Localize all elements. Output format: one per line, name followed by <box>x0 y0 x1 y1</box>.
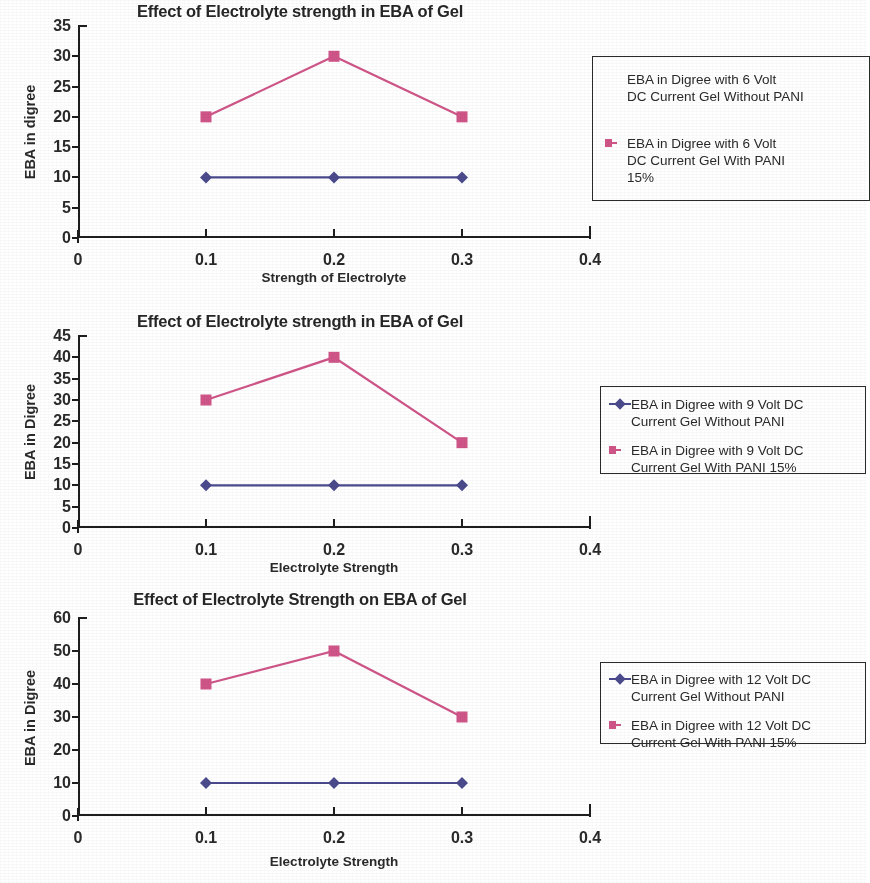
chart-1-y-tick-label: 0 <box>62 230 71 246</box>
chart-2-series-1-point <box>200 479 212 491</box>
chart-3-series-2-line <box>206 651 462 717</box>
chart-1-x-tick-label: 0.1 <box>195 252 217 268</box>
chart-figure-3: Effect of Electrolyte Strength on EBA of… <box>0 588 867 883</box>
chart-2-y-tick-label: 10 <box>53 477 71 493</box>
chart-2-x-tick-label: 0.3 <box>451 542 473 558</box>
chart-1-series-2-point <box>329 51 340 62</box>
chart-3-legend-label-2: EBA in Digree with 12 Volt DC Current Ge… <box>631 717 811 751</box>
chart-2-y-axis-title: EBA in Digree <box>22 384 38 480</box>
chart-2-y-tick-label: 0 <box>62 520 71 536</box>
chart-1-y-tick-label: 10 <box>53 169 71 185</box>
chart-2-series-1-point <box>456 479 468 491</box>
chart-2-series-2-line <box>206 357 462 442</box>
chart-3-series-2-point <box>329 646 340 657</box>
chart-2-legend-label-1: EBA in Digree with 9 Volt DC Current Gel… <box>631 396 804 430</box>
chart-3-plot-area: 010203040506000.10.20.30.4 <box>78 618 590 816</box>
chart-3-series-layer <box>78 618 590 816</box>
chart-3-legend-entry-1[interactable]: EBA in Digree with 12 Volt DC Current Ge… <box>609 671 857 705</box>
chart-3-y-tick-label: 40 <box>53 676 71 692</box>
chart-1-legend-label-2: EBA in Digree with 6 Volt DC Current Gel… <box>627 135 785 186</box>
chart-3-legend-label-1: EBA in Digree with 12 Volt DC Current Ge… <box>631 671 811 705</box>
chart-1-series-2-line <box>206 56 462 117</box>
chart-2-series-2-point <box>329 352 340 363</box>
chart-2-title: Effect of Electrolyte strength in EBA of… <box>0 312 600 331</box>
chart-3-y-axis-title: EBA in Digree <box>22 670 38 766</box>
chart-2-series-2-point <box>457 437 468 448</box>
legend-diamond-marker-icon <box>609 672 631 687</box>
chart-3-y-tick-label: 0 <box>62 808 71 824</box>
chart-1-series-1-point <box>200 171 212 183</box>
chart-3-series-1-point <box>200 777 212 789</box>
chart-2-legend: EBA in Digree with 9 Volt DC Current Gel… <box>600 386 866 474</box>
chart-3-y-tick-label: 20 <box>53 742 71 758</box>
chart-2-y-tick-label: 45 <box>53 328 71 344</box>
chart-1-y-tick-label: 30 <box>53 48 71 64</box>
chart-2-series-2-point <box>201 395 212 406</box>
chart-3-legend: EBA in Digree with 12 Volt DC Current Ge… <box>600 662 866 744</box>
chart-1-series-1-point <box>328 171 340 183</box>
chart-1-y-tick-label: 20 <box>53 109 71 125</box>
chart-2-series-1-point <box>328 479 340 491</box>
chart-3-x-tick-label: 0 <box>74 830 83 846</box>
chart-3-series-2-point <box>457 712 468 723</box>
chart-2-x-tick-label: 0 <box>74 542 83 558</box>
chart-3-x-tick-label: 0.3 <box>451 830 473 846</box>
chart-2-y-tick-label: 15 <box>53 456 71 472</box>
chart-2-y-tick-label: 40 <box>53 349 71 365</box>
legend-square-marker-icon <box>605 136 627 151</box>
chart-1-x-tick-label: 0.3 <box>451 252 473 268</box>
chart-1-y-tick-label: 15 <box>53 139 71 155</box>
chart-2-x-tick-label: 0.2 <box>323 542 345 558</box>
legend-diamond-marker-icon <box>609 397 631 412</box>
chart-2-plot-area: 05101520253035404500.10.20.30.4 <box>78 336 590 528</box>
chart-3-x-tick-label: 0.4 <box>579 830 601 846</box>
chart-3-title: Effect of Electrolyte Strength on EBA of… <box>0 590 600 609</box>
chart-2-y-tick-label: 20 <box>53 435 71 451</box>
chart-2-legend-label-2: EBA in Digree with 9 Volt DC Current Gel… <box>631 442 804 476</box>
chart-1-legend-entry-2[interactable]: EBA in Digree with 6 Volt DC Current Gel… <box>605 135 859 186</box>
chart-1-x-tick-label: 0.4 <box>579 252 601 268</box>
chart-3-y-tick-label: 50 <box>53 643 71 659</box>
chart-3-y-tick-label: 60 <box>53 610 71 626</box>
chart-1-plot-area: 0510152025303500.10.20.30.4 <box>78 26 590 238</box>
chart-1-x-tick-label: 0 <box>74 252 83 268</box>
chart-3-y-tick-label: 30 <box>53 709 71 725</box>
legend-square-marker-icon <box>609 718 631 733</box>
chart-1-y-tick-label: 35 <box>53 18 71 34</box>
chart-1-series-1-point <box>456 171 468 183</box>
chart-1-title: Effect of Electrolyte strength in EBA of… <box>0 2 600 21</box>
chart-1-legend-label-1: EBA in Digree with 6 Volt DC Current Gel… <box>627 71 804 105</box>
chart-2-legend-entry-1[interactable]: EBA in Digree with 9 Volt DC Current Gel… <box>609 396 857 430</box>
chart-2-y-tick-label: 30 <box>53 392 71 408</box>
chart-3-x-tick-label: 0.1 <box>195 830 217 846</box>
chart-1-series-2-point <box>201 111 212 122</box>
chart-1-legend: EBA in Digree with 6 Volt DC Current Gel… <box>592 56 870 201</box>
chart-2-y-tick-label: 25 <box>53 413 71 429</box>
chart-2-series-layer <box>78 336 590 528</box>
chart-1-x-axis-title: Strength of Electrolyte <box>262 270 407 285</box>
chart-3-series-1-point <box>328 777 340 789</box>
chart-1-y-tick-label: 5 <box>62 200 71 216</box>
chart-figure-1: Effect of Electrolyte strength in EBA of… <box>0 0 867 318</box>
chart-2-legend-entry-2[interactable]: EBA in Digree with 9 Volt DC Current Gel… <box>609 442 857 476</box>
chart-1-series-layer <box>78 26 590 238</box>
chart-1-y-axis-title: EBA in digree <box>22 85 38 180</box>
chart-3-y-tick-label: 10 <box>53 775 71 791</box>
chart-3-legend-entry-2[interactable]: EBA in Digree with 12 Volt DC Current Ge… <box>609 717 857 751</box>
chart-2-x-axis-title: Electrolyte Strength <box>270 560 398 575</box>
chart-figure-2: Effect of Electrolyte strength in EBA of… <box>0 308 867 593</box>
chart-3-series-1-point <box>456 777 468 789</box>
chart-2-y-tick-label: 5 <box>62 499 71 515</box>
chart-1-x-tick-label: 0.2 <box>323 252 345 268</box>
chart-1-series-2-point <box>457 111 468 122</box>
chart-3-series-2-point <box>201 679 212 690</box>
chart-1-y-tick-label: 25 <box>53 79 71 95</box>
legend-square-marker-icon <box>609 443 631 458</box>
chart-2-x-tick-label: 0.4 <box>579 542 601 558</box>
chart-3-x-tick-label: 0.2 <box>323 830 345 846</box>
chart-2-x-tick-label: 0.1 <box>195 542 217 558</box>
chart-2-y-tick-label: 35 <box>53 371 71 387</box>
chart-1-legend-entry-1[interactable]: EBA in Digree with 6 Volt DC Current Gel… <box>605 71 859 105</box>
chart-3-x-axis-title: Electrolyte Strength <box>270 854 398 869</box>
